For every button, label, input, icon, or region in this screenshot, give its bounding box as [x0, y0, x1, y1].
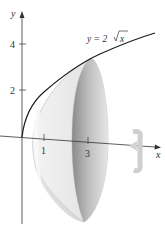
equation-prefix: y = 2 — [86, 34, 107, 44]
y-axis-arrow-icon — [20, 11, 25, 18]
x-tick-label-3: 3 — [85, 148, 90, 159]
y-tick-label-2: 2 — [10, 85, 15, 96]
y-axis-label: y — [10, 8, 16, 19]
x-axis-label: x — [155, 149, 161, 160]
equation-label: y = 2 x — [86, 31, 128, 44]
solid-of-revolution-figure: y x 4 2 1 3 y = 2 x — [0, 0, 165, 229]
x-tick-label-1: 1 — [41, 145, 46, 156]
rotation-arrow-icon — [129, 131, 140, 170]
y-tick-label-4: 4 — [10, 39, 15, 50]
equation-radicand: x — [119, 34, 125, 44]
